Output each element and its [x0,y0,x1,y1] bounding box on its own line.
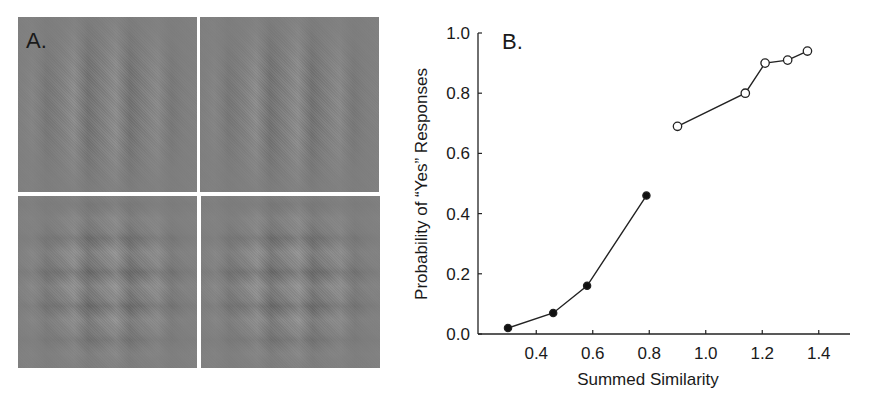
chart-series [504,47,811,332]
panel-b-chart: 0.00.20.40.60.81.00.40.60.81.01.21.4 Sum… [400,0,889,410]
filled-circle-marker [643,192,650,199]
y-tick-label: 0.4 [446,205,470,224]
line-chart: 0.00.20.40.60.81.00.40.60.81.01.21.4 Sum… [400,0,889,410]
stimulus-patch-bottom-left [18,196,197,368]
y-tick-label: 0.2 [446,265,470,284]
open-circle-marker [783,56,791,64]
panel-a-stimuli: A. [0,0,400,410]
open-circle-marker [761,59,769,67]
y-tick-label: 0.6 [446,144,470,163]
x-tick-label: 0.6 [581,344,605,363]
stimulus-patch-top-right [200,17,379,192]
filled-circle-marker [584,282,591,289]
open-circle-marker [741,89,749,97]
x-tick-label: 1.2 [750,344,774,363]
open-circle-marker [803,47,811,55]
y-tick-label: 1.0 [446,24,470,43]
x-tick-label: 0.8 [637,344,661,363]
x-tick-label: 0.4 [524,344,548,363]
open-circle-marker [673,122,681,130]
x-axis-label: Summed Similarity [577,370,719,389]
filled-circle-marker [504,324,511,331]
series-line-filled [508,196,646,328]
x-tick-label: 1.4 [807,344,831,363]
y-axis-label: Probability of “Yes” Responses [412,68,431,300]
y-tick-label: 0.0 [446,325,470,344]
filled-circle-marker [550,309,557,316]
panel-b-label: B. [502,29,523,54]
stimulus-patch-bottom-right [201,196,380,368]
panel-a-label: A. [26,28,47,54]
x-tick-label: 1.0 [694,344,718,363]
y-tick-label: 0.8 [446,84,470,103]
